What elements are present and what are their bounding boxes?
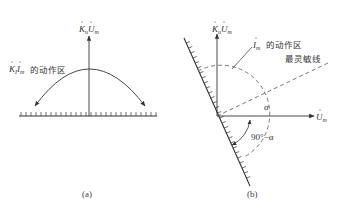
panel-a-caption: (a) [82,189,92,199]
panel-b-operating-zone-arc [198,65,270,157]
panel-b-alpha-label: α [264,102,269,112]
panel-b-sensitivity-line [217,63,328,116]
panel-b-horizontal-axis-label: Um [316,112,328,123]
panel-a-axis-label: KuUm [78,24,100,35]
diagram-canvas: KuUm KIIm 的动作区 (a) [0,0,337,209]
panel-a-zone-label-text: 的动作区 [30,65,66,75]
panel-a: KuUm KIIm 的动作区 (a) [8,21,157,199]
panel-b-zone-label-text: 的动作区 [266,40,302,50]
panel-a-hatching [21,112,156,116]
panel-b-hatching [186,42,250,179]
panel-b-vertical-axis-label: KuUm [211,24,233,35]
panel-b-caption: (b) [247,189,258,199]
panel-b-sensitivity-label: 最灵敏线 [285,54,321,64]
panel-b-zone-label-math: Im [252,40,261,51]
panel-b-complement-angle-label: 90°−α [251,132,274,142]
panel-b-zone-leader [232,47,252,69]
panel-b-angle-arc [232,120,250,145]
panel-a-zone-label-math: KIIm [8,64,25,75]
panel-b: KuUm Um Im 的动作区 最灵敏线 α 90°−α (b) [184,21,328,199]
